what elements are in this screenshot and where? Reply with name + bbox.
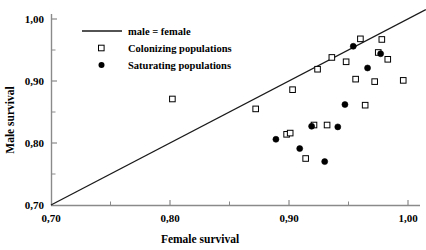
data-point-colonizing [329, 55, 335, 61]
y-tick-label: 1,00 [25, 13, 45, 25]
data-point-colonizing [400, 78, 406, 84]
data-point-saturating [297, 146, 303, 152]
data-point-colonizing [170, 96, 176, 102]
data-point-colonizing [353, 76, 359, 82]
data-point-colonizing [343, 59, 349, 65]
data-point-saturating [335, 124, 341, 130]
data-point-colonizing [379, 37, 385, 43]
data-point-colonizing [253, 106, 259, 112]
data-point-saturating [322, 159, 328, 165]
data-point-saturating [350, 43, 356, 49]
data-point-colonizing [385, 57, 391, 63]
data-point-colonizing [362, 102, 368, 108]
y-axis-title: Male survival [4, 86, 16, 153]
data-point-colonizing [324, 122, 330, 128]
legend-label: Colonizing populations [128, 43, 232, 54]
scatter-chart: 0,700,800,901,00 0,700,800,901,00 Female… [0, 0, 426, 250]
chart-svg: 0,700,800,901,00 0,700,800,901,00 Female… [0, 0, 426, 250]
data-point-colonizing [290, 87, 296, 93]
data-point-saturating [342, 102, 348, 108]
x-tick-label: 1,00 [398, 212, 418, 224]
y-tick-label: 0,70 [25, 199, 45, 211]
data-point-saturating [309, 123, 315, 129]
y-tick-label: 0,90 [25, 75, 45, 87]
x-tick-label: 0,80 [160, 212, 180, 224]
legend-filled-circle-swatch [99, 62, 105, 68]
x-tick-label: 0,70 [41, 212, 61, 224]
data-point-saturating [365, 65, 371, 71]
data-point-colonizing [315, 66, 321, 72]
data-point-colonizing [303, 156, 309, 162]
y-tick-label: 0,80 [25, 137, 45, 149]
legend-open-square-swatch [99, 45, 105, 51]
data-point-colonizing [372, 79, 378, 85]
data-point-saturating [378, 51, 384, 57]
data-point-colonizing [358, 36, 364, 42]
x-axis-title: Female survival [161, 233, 239, 245]
legend-label: Saturating populations [128, 60, 231, 71]
data-point-colonizing [287, 130, 293, 136]
data-point-saturating [273, 136, 279, 142]
legend-label: male = female [128, 26, 191, 37]
x-tick-label: 0,90 [279, 212, 299, 224]
